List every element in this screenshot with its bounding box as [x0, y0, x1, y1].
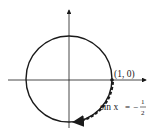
equation-lhs: sin x: [100, 102, 118, 112]
equation-equals: =: [125, 102, 130, 112]
point-label: (1, 0): [114, 69, 135, 80]
fraction-denominator: 2: [141, 109, 145, 117]
equation-sign: −: [133, 102, 138, 112]
fraction-numerator: 1: [141, 98, 145, 106]
unit-circle-diagram: (1, 0) sin x = − 1 2: [0, 0, 153, 135]
